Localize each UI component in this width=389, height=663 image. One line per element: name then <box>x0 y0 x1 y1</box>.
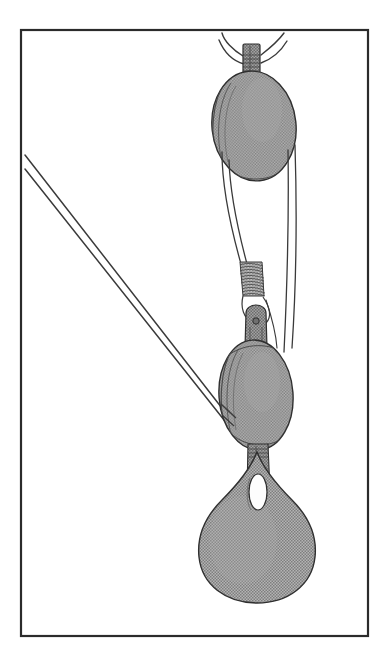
illustration-stage: Line drawing of a block and tackle: an u… <box>0 0 389 663</box>
load-shading <box>209 496 277 584</box>
block-and-tackle-figure <box>0 0 389 663</box>
upper-block-highlight <box>242 78 282 142</box>
shackle-pin-hole-icon <box>253 318 259 324</box>
plate-border <box>21 30 368 636</box>
load-highlight <box>209 496 277 584</box>
lower-block-highlight <box>244 352 280 412</box>
load-eye-opening <box>249 474 267 510</box>
